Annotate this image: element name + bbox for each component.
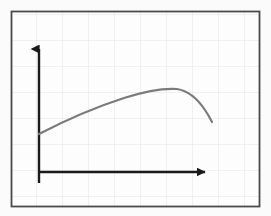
chart-grid xyxy=(12,12,259,206)
figure-root xyxy=(0,0,271,216)
chart-canvas xyxy=(0,0,271,216)
